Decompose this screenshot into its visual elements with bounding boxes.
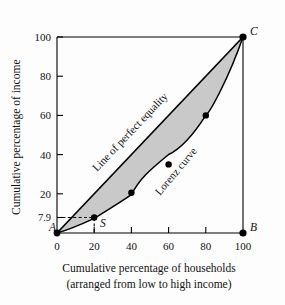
y-tick-label-100: 100: [35, 31, 52, 43]
x-tick-label-60: 60: [163, 240, 175, 252]
x-tick-label-20: 20: [89, 240, 101, 252]
point-s-label: S: [100, 217, 106, 229]
lorenz-curve-chart: 100 80 60 40 20 7.9 0 20 40 60 80 100 A …: [0, 0, 285, 305]
point-b-label: B: [250, 221, 257, 233]
point-c-marker: [239, 33, 246, 40]
x-tick-label-80: 80: [200, 240, 212, 252]
y-tick-label-80: 80: [40, 70, 52, 82]
point-c-label: C: [250, 25, 258, 37]
y-tick-label-20: 20: [40, 188, 52, 200]
point-40-marker: [128, 190, 134, 196]
x-axis-title: Cumulative percentage of households: [62, 262, 236, 275]
point-a-label: A: [48, 221, 57, 233]
x-tick-label-100: 100: [235, 240, 252, 252]
x-tick-label-0: 0: [54, 240, 60, 252]
point-80-marker: [203, 112, 209, 118]
y-tick-label-40: 40: [40, 149, 52, 161]
x-axis-title-subtitle: (arranged from low to high income): [66, 278, 231, 291]
lorenz-curve-figure: 100 80 60 40 20 7.9 0 20 40 60 80 100 A …: [0, 0, 285, 305]
x-tick-label-40: 40: [126, 240, 138, 252]
point-s-marker: [91, 214, 97, 220]
y-tick-label-60: 60: [40, 109, 52, 121]
point-b-marker: [239, 229, 246, 236]
y-axis-title: Cumulative percentage of income: [10, 59, 23, 215]
